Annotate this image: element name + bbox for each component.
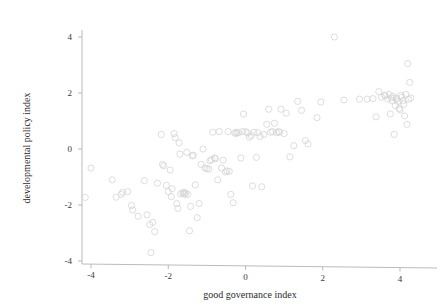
scatter-point: [128, 202, 134, 208]
scatter-point: [141, 178, 147, 184]
scatter-point: [220, 157, 226, 163]
scatter-point: [266, 106, 272, 112]
x-axis-ticks: [91, 264, 400, 271]
scatter-point: [404, 121, 410, 127]
scatter-point: [82, 194, 88, 200]
x-axis-line: [82, 264, 437, 268]
y-tick-label-4: 4: [68, 32, 73, 42]
scatter-point: [152, 229, 158, 235]
scatter-point: [109, 177, 115, 183]
scatter-point: [225, 129, 231, 135]
x-tick-label-2: 2: [321, 273, 326, 283]
scatter-point: [408, 95, 414, 101]
axes: [82, 30, 437, 268]
scatter-point: [163, 182, 169, 188]
y-tick-label--2: -2: [65, 200, 73, 210]
scatter-point: [184, 149, 190, 155]
scatter-point: [387, 111, 393, 117]
scatter-point: [391, 131, 397, 137]
scatter-point: [364, 96, 370, 102]
scatter-point: [295, 98, 301, 104]
scatter-point: [176, 140, 182, 146]
scatter-point: [192, 182, 198, 188]
scatter-point: [130, 207, 136, 213]
x-tick-label--2: -2: [165, 271, 173, 281]
scatter-point: [210, 129, 216, 135]
chart-canvas: -4-2024 -4-2024 good governance index de…: [0, 0, 441, 307]
scatter-point: [198, 161, 204, 167]
scatter-point: [283, 110, 289, 116]
y-tick-label-2: 2: [68, 88, 73, 98]
y-axis-tick-labels: -4-2024: [65, 32, 73, 266]
scatter-point: [253, 154, 259, 160]
scatter-point: [118, 191, 124, 197]
scatter-point: [144, 212, 150, 218]
scatter-point: [287, 154, 293, 160]
scatter-point: [264, 121, 270, 127]
scatter-point: [148, 250, 154, 256]
scatter-point: [314, 115, 320, 121]
scatter-point: [402, 113, 408, 119]
scatter-point: [271, 120, 277, 126]
scatter-point: [238, 155, 244, 161]
scatter-point: [298, 107, 304, 113]
scatter-point: [177, 151, 183, 157]
scatter-point: [373, 114, 379, 120]
scatter-point: [167, 167, 173, 173]
x-tick-label-0: 0: [243, 272, 248, 282]
y-axis-title: developmental policy index: [21, 92, 32, 203]
scatter-point: [186, 228, 192, 234]
scatter-point: [407, 79, 413, 85]
scatter-point: [318, 99, 324, 105]
scatter-point: [215, 177, 221, 183]
scatter-point: [261, 131, 267, 137]
y-tick-label--4: -4: [65, 256, 73, 266]
scatter-point: [331, 34, 337, 40]
scatter-point: [161, 163, 167, 169]
x-tick-label--4: -4: [87, 270, 95, 280]
scatter-point: [341, 97, 347, 103]
scatter-point: [171, 131, 177, 137]
scatter-plot-figure: -4-2024 -4-2024 good governance index de…: [0, 0, 441, 307]
scatter-point: [405, 61, 411, 67]
x-axis-title: good governance index: [203, 289, 296, 300]
scatter-point: [196, 201, 202, 207]
x-axis-tick-labels: -4-2024: [87, 270, 403, 283]
scatter-point: [240, 111, 246, 117]
scatter-point: [230, 200, 236, 206]
scatter-point: [356, 96, 362, 102]
scatter-point: [216, 129, 222, 135]
scatter-point: [154, 180, 160, 186]
scatter-point: [88, 165, 94, 171]
scatter-point: [259, 184, 265, 190]
scatter-point: [158, 131, 164, 137]
scatter-point: [194, 215, 200, 221]
y-axis-ticks: [78, 37, 82, 261]
scatter-point: [291, 143, 297, 149]
x-tick-label-4: 4: [398, 274, 403, 284]
scatter-point: [370, 96, 376, 102]
y-tick-label-0: 0: [68, 144, 73, 154]
scatter-point: [188, 203, 194, 209]
scatter-point: [200, 146, 206, 152]
scatter-point: [249, 183, 255, 189]
scatter-point: [168, 194, 174, 200]
scatter-point: [135, 213, 141, 219]
scatter-point: [228, 191, 234, 197]
scatter-points-group: [82, 34, 414, 256]
